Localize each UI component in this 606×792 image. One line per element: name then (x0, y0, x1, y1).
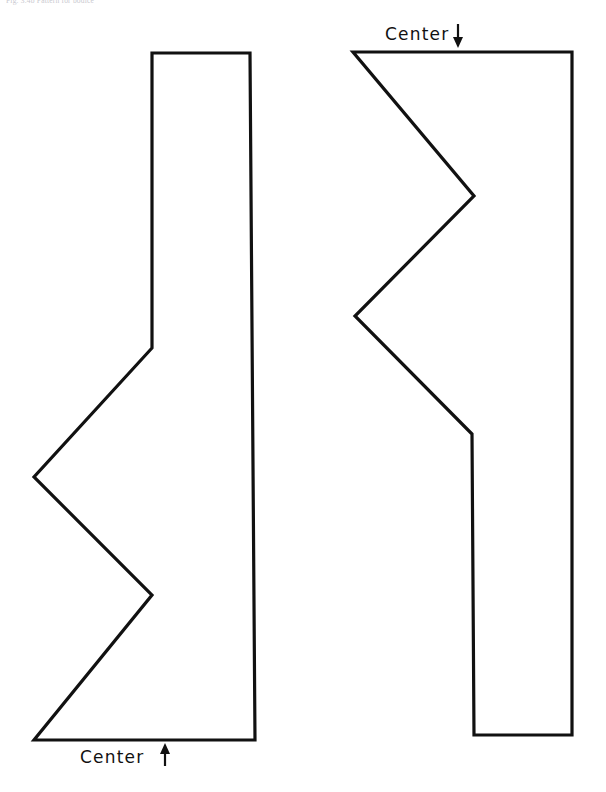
arrow-up-icon (160, 743, 170, 766)
left-pattern-piece (34, 53, 255, 740)
center-label-top-text: Center (385, 24, 449, 44)
center-label-top: Center (385, 24, 463, 48)
center-label-bottom-text: Center (80, 747, 144, 767)
pattern-drawing: Center Center (0, 0, 606, 792)
center-label-bottom: Center (80, 743, 170, 767)
right-pattern-piece (353, 52, 572, 735)
arrow-down-icon (453, 24, 463, 48)
pattern-sheet: Fig. 3.4b Pattern for bodice Center Cent… (0, 0, 606, 792)
